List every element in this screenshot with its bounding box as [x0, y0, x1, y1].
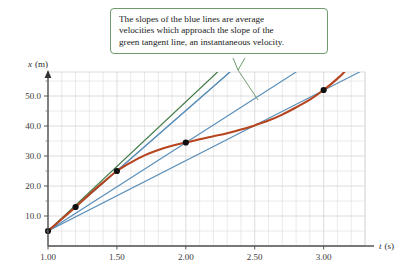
- x-axis-title: t(s): [379, 241, 394, 251]
- y-axis-unit: (m): [35, 59, 48, 69]
- y-tick-label: 40.0: [25, 121, 41, 131]
- y-tick-label: 30.0: [25, 151, 41, 161]
- y-axis-arrow-icon: [45, 70, 52, 78]
- x-tick-label: 2.00: [178, 252, 194, 262]
- data-point-marker: [183, 139, 189, 145]
- plot-border: [48, 72, 365, 246]
- figure-root: 1.001.502.002.503.0010.020.030.040.050.0…: [0, 0, 409, 277]
- callout-line-2: velocities which approach the slope of t…: [119, 25, 320, 36]
- x-tick-label: 1.00: [40, 252, 56, 262]
- x-tick-label: 3.00: [316, 252, 332, 262]
- x-axis-unit: (s): [385, 241, 395, 251]
- y-tick-label: 10.0: [25, 211, 41, 221]
- y-axis-title: x(m): [27, 59, 48, 69]
- callout-line-3: green tangent line, an instantaneous vel…: [119, 37, 320, 48]
- y-tick-label: 50.0: [25, 91, 41, 101]
- data-point-marker: [321, 87, 327, 93]
- annotation-callout: The slopes of the blue lines are average…: [110, 8, 328, 54]
- x-tick-label: 2.50: [247, 252, 263, 262]
- callout-line-1: The slopes of the blue lines are average: [119, 14, 320, 25]
- x-axis-symbol: t: [379, 241, 382, 251]
- y-tick-label: 20.0: [25, 181, 41, 191]
- callout-tail-icon: [233, 58, 245, 70]
- y-axis-symbol: x: [27, 59, 32, 69]
- data-point-marker: [114, 168, 120, 174]
- grid-lines: [48, 72, 365, 246]
- data-point-marker: [72, 204, 78, 210]
- x-tick-label: 1.50: [109, 252, 125, 262]
